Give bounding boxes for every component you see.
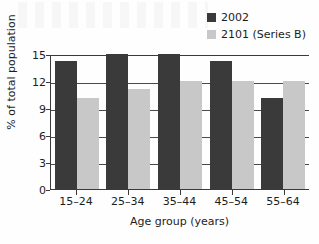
bar-series-container <box>51 56 309 189</box>
legend-item-2101[interactable]: 2101 (Series B) <box>207 26 319 43</box>
plot-area <box>50 55 309 190</box>
x-axis-title: Age group (years) <box>50 216 309 228</box>
chart-legend: 2002 2101 (Series B) <box>207 9 319 43</box>
y-tick-label: 0 <box>24 185 46 196</box>
legend-label-2101: 2101 (Series B) <box>221 29 306 40</box>
legend-swatch-2101 <box>207 30 216 39</box>
x-axis-tick-labels: 15–24 25–34 35–44 45–54 55–64 <box>50 196 309 207</box>
y-axis-tick-labels: 15 12 9 6 3 0 <box>24 55 46 190</box>
bar-group <box>158 56 202 189</box>
bar-2101[interactable] <box>77 98 99 189</box>
bar-2101[interactable] <box>128 89 150 189</box>
y-tick-label: 3 <box>24 158 46 169</box>
bar-group <box>261 56 305 189</box>
y-axis-title: % of total population <box>6 12 18 132</box>
legend-label-2002: 2002 <box>221 12 249 23</box>
bar-2101[interactable] <box>180 81 202 189</box>
scan-bleed-artifact <box>18 2 208 28</box>
x-tick-label: 35–44 <box>156 196 202 207</box>
x-tick-label: 25–34 <box>105 196 151 207</box>
y-tick-label: 15 <box>24 50 46 61</box>
legend-swatch-2002 <box>207 13 216 22</box>
bar-2101[interactable] <box>283 81 305 189</box>
bar-2002[interactable] <box>158 54 180 189</box>
y-tick-label: 12 <box>24 77 46 88</box>
y-tick-label: 9 <box>24 104 46 115</box>
bar-group <box>106 56 150 189</box>
bar-2002[interactable] <box>210 61 232 189</box>
bar-group <box>210 56 254 189</box>
y-tick-label: 6 <box>24 131 46 142</box>
x-tick-label: 55–64 <box>260 196 306 207</box>
chart-figure: 2002 2101 (Series B) % of total populati… <box>0 0 319 244</box>
bar-2002[interactable] <box>55 61 77 189</box>
bar-2002[interactable] <box>106 54 128 189</box>
x-tick-label: 45–54 <box>208 196 254 207</box>
legend-item-2002[interactable]: 2002 <box>207 9 319 26</box>
x-tick-label: 15–24 <box>53 196 99 207</box>
y-tick-mark <box>46 190 50 191</box>
bar-2101[interactable] <box>232 81 254 189</box>
bar-group <box>55 56 99 189</box>
bar-2002[interactable] <box>261 98 283 189</box>
